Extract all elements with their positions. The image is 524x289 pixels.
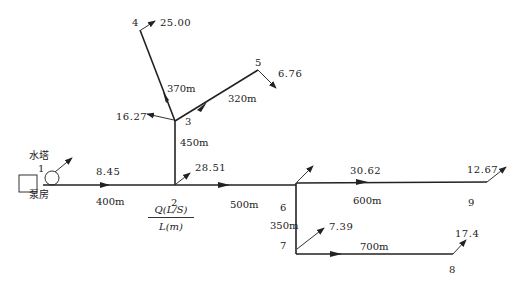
node-2-outflow: 28.51 xyxy=(195,163,226,173)
flow-arrow-7-8 xyxy=(330,251,342,257)
node8-outflow-arrow xyxy=(453,240,466,254)
node-1-label: 1 xyxy=(38,164,44,174)
node-8-outflow: 17.4 xyxy=(455,229,479,239)
node3-outflow-arrow xyxy=(147,114,174,120)
legend-fraction: Q(L/S) L(m) xyxy=(148,204,194,232)
node-7-outflow: 7.39 xyxy=(329,222,353,232)
pipe-6-9-length: 600m xyxy=(353,196,382,206)
node2-outflow-arrow xyxy=(176,173,190,184)
pipe-3-4-length: 370m xyxy=(167,84,196,94)
pipe-1-2-flow: 8.45 xyxy=(96,167,120,177)
pipe-1-2-length: 400m xyxy=(96,197,125,207)
node-9-outflow: 12.67 xyxy=(467,165,498,175)
node4-outflow-arrow xyxy=(141,21,155,30)
node-3-outflow: 16.27 xyxy=(116,112,147,122)
legend-numerator: Q(L/S) xyxy=(148,204,194,218)
node-8-label: 8 xyxy=(449,265,455,275)
node-7-label: 7 xyxy=(280,241,286,251)
node7-outflow-arrow xyxy=(297,228,324,249)
node-3-label: 3 xyxy=(185,117,191,127)
node-5-outflow: 6.76 xyxy=(278,69,302,79)
flow-arrow-2-6 xyxy=(218,182,230,188)
pipe-2-3-length: 450m xyxy=(180,138,209,148)
pipe-7-8-length: 700m xyxy=(360,242,389,252)
node-4-outflow: 25.00 xyxy=(160,18,191,28)
legend-denominator: L(m) xyxy=(148,218,194,232)
node6-outflow-arrow xyxy=(297,166,313,182)
node-4-label: 4 xyxy=(132,18,138,28)
pipe-2-6-length: 500m xyxy=(230,200,259,210)
water-tower-label: 水塔 xyxy=(29,151,49,161)
pipe-3-4 xyxy=(140,30,175,121)
water-tower-icon xyxy=(45,171,59,185)
pump-house-label: 泵房 xyxy=(29,190,49,200)
node-5-label: 5 xyxy=(255,58,261,68)
flow-arrow-6-9 xyxy=(356,179,368,185)
pipe-3-5-length: 320m xyxy=(228,94,257,104)
node-9-label: 9 xyxy=(468,198,474,208)
flow-arrow-1-2 xyxy=(100,182,110,188)
pipe-6-7-length: 350m xyxy=(270,221,299,231)
node5-outflow-arrow xyxy=(258,70,276,88)
pipe-6-9-flow: 30.62 xyxy=(350,166,381,176)
node-6-label: 6 xyxy=(280,203,286,213)
pipe-network-drawing xyxy=(0,0,524,289)
pipe-6-9 xyxy=(296,182,487,183)
tower-outflow-arrow xyxy=(55,158,72,172)
